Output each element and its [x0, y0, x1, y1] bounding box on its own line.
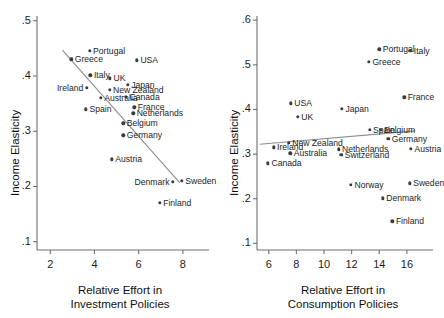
- data-point-label: Sweden: [185, 177, 216, 186]
- x-axis-title-line-1: Relative Effort in: [25, 283, 215, 297]
- data-point-label: USA: [294, 99, 312, 108]
- data-point-label: Netherlands: [137, 109, 183, 118]
- data-point-label: Spain: [90, 105, 112, 114]
- data-point-label: Norway: [354, 180, 383, 189]
- x-tick-label: 8: [168, 259, 198, 270]
- x-axis-title: Relative Effort inConsumption Policies: [248, 283, 438, 311]
- data-point-label: Finland: [396, 217, 424, 226]
- y-tick-label: .5: [7, 15, 31, 26]
- data-point-label: Australia: [104, 94, 137, 103]
- data-point-label: UK: [113, 74, 125, 83]
- x-tick-label: 16: [392, 259, 422, 270]
- data-point-label: Greece: [75, 55, 103, 64]
- data-point-label: Switzerland: [345, 150, 389, 159]
- data-point-label: Canada: [272, 159, 302, 168]
- data-point-label: Belgium: [127, 119, 158, 128]
- data-point-label: Germany: [392, 135, 427, 144]
- data-point-label: Finland: [163, 198, 191, 207]
- x-axis-title-line-1: Relative Effort in: [248, 283, 438, 297]
- x-axis-title-line-2: Investment Policies: [25, 297, 215, 311]
- x-tick-label: 8: [281, 259, 311, 270]
- data-point-label: Denmark: [135, 178, 170, 187]
- x-tick-label: 6: [254, 259, 284, 270]
- y-tick-label: .1: [7, 236, 31, 247]
- data-point-label: Sweden: [413, 179, 444, 188]
- data-point-label: Greece: [372, 57, 400, 66]
- y-tick-label: .5: [227, 59, 251, 70]
- x-tick-label: 10: [309, 259, 339, 270]
- data-point-label: UK: [301, 113, 313, 122]
- x-tick-label: 6: [124, 259, 154, 270]
- y-tick-label: .1: [227, 237, 251, 248]
- scatter-panel-investment: .1.2.3.4.52468Income ElasticityRelative …: [0, 0, 219, 318]
- x-axis-title: Relative Effort inInvestment Policies: [25, 283, 215, 311]
- data-point-label: Italy: [414, 47, 430, 56]
- x-tick-label: 14: [364, 259, 394, 270]
- y-tick-label: .6: [227, 14, 251, 25]
- data-point-label: France: [408, 93, 435, 102]
- x-axis-title-line-2: Consumption Policies: [248, 297, 438, 311]
- data-point-label: USA: [140, 56, 158, 65]
- scatter-panel-consumption: .1.2.3.4.5.66810121416Income ElasticityR…: [219, 0, 439, 318]
- x-tick-label: 12: [337, 259, 367, 270]
- data-point-label: Austria: [115, 155, 142, 164]
- x-tick-label: 2: [35, 259, 65, 270]
- y-tick-label: .4: [7, 70, 31, 81]
- y-axis-title: Income Elasticity: [229, 110, 241, 196]
- data-point-label: Denmark: [386, 194, 421, 203]
- x-tick-label: 4: [79, 259, 109, 270]
- data-point-label: Australia: [294, 149, 327, 158]
- y-axis-title: Income Elasticity: [10, 110, 22, 196]
- data-point-label: Germany: [127, 131, 162, 140]
- data-point-label: Japan: [345, 104, 368, 113]
- data-point-label: Austria: [415, 144, 442, 153]
- data-point-label: Ireland: [57, 83, 83, 92]
